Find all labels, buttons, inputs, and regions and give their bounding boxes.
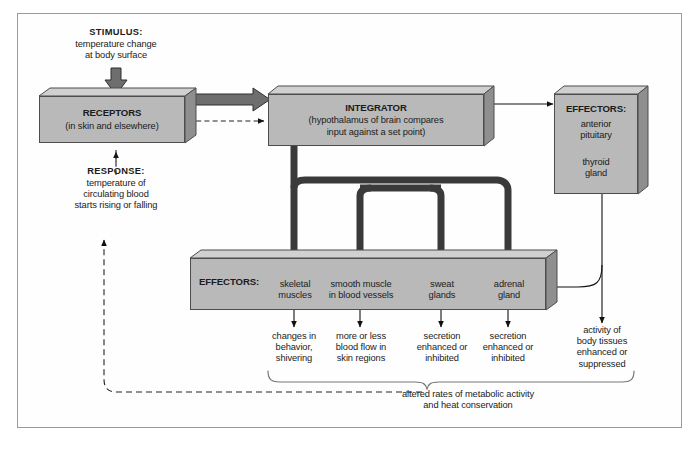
receptors-header: RECEPTORS: [83, 107, 142, 118]
outcome-body-tissue-activity: activity of body tissues enhanced or sup…: [562, 325, 642, 370]
integrator-header: INTEGRATOR: [345, 102, 407, 113]
effectors-right-box: EFFECTORS: anterior pituitary thyroid gl…: [554, 94, 638, 194]
receptors-box: RECEPTORS (in skin and elsewhere): [39, 96, 185, 143]
effectors-bottom-box: EFFECTORS: skeletal muscles smooth muscl…: [190, 258, 546, 310]
outcome-blood-flow: more or less blood flow in skin regions: [318, 331, 404, 365]
receptors-subtext: (in skin and elsewhere): [65, 121, 158, 132]
effectors-bottom-item-sweat-glands: sweat glands: [405, 279, 479, 301]
summary-text: altered rates of metabolic activity and …: [373, 389, 563, 411]
effectors-right-header: EFFECTORS:: [555, 103, 637, 114]
effectors-bottom-header: EFFECTORS:: [199, 276, 259, 287]
stimulus-label: STIMULUS:: [56, 27, 176, 38]
stimulus-text: temperature change at body surface: [46, 39, 186, 61]
effectors-bottom-item-adrenal-gland: adrenal gland: [473, 279, 545, 301]
integrator-subtext: (hypothalamus of brain compares input ag…: [309, 115, 444, 137]
effectors-right-item-pituitary: anterior pituitary: [555, 119, 637, 141]
integrator-box: INTEGRATOR (hypothalamus of brain compar…: [268, 94, 484, 146]
response-label: RESPONSE:: [56, 166, 176, 177]
response-text: temperature of circulating blood starts …: [36, 178, 196, 212]
outcome-adrenal-secretion: secretion enhanced or inhibited: [464, 331, 552, 365]
effectors-bottom-item-smooth-muscle: smooth muscle in blood vessels: [313, 279, 409, 301]
diagram-canvas: RECEPTORS (in skin and elsewhere) INTEGR…: [0, 0, 699, 451]
effectors-right-item-thyroid: thyroid gland: [555, 157, 637, 179]
